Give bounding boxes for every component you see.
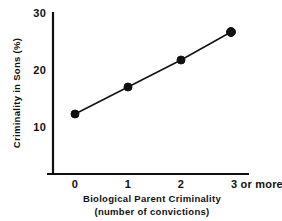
y-tick-label-10: 10 [33,121,46,133]
y-axis-title: Criminality in Sons (%) [11,38,22,148]
data-point-0 [71,110,79,118]
line-chart: 30 20 10 0 1 2 3 or more Biological Pare… [0,0,282,221]
x-tick-label-3-or-more: 3 or more [231,178,282,190]
x-axis-subtitle: (number of convictions) [94,206,209,217]
x-tick-label-1: 1 [125,178,131,190]
x-tick-label-2: 2 [178,178,184,190]
chart-container: 30 20 10 0 1 2 3 or more Biological Pare… [0,0,282,221]
y-tick-label-20: 20 [33,64,46,76]
x-axis-title: Biological Parent Criminality [83,193,221,204]
data-point-3 [227,28,236,37]
x-tick-label-0: 0 [72,178,78,190]
data-point-1 [124,83,132,91]
y-tick-label-30: 30 [33,7,46,19]
series-line-criminality [75,32,231,114]
data-point-2 [177,56,185,64]
